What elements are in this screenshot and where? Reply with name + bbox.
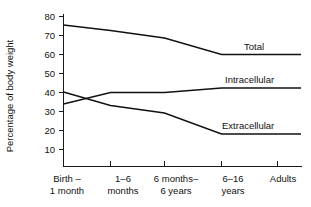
series-label-total: Total bbox=[244, 41, 264, 52]
x-tick-label-1-line2: months bbox=[107, 185, 138, 196]
y-tick-label-50: 50 bbox=[44, 68, 55, 79]
y-tick-label-60: 60 bbox=[44, 49, 55, 60]
x-tick-label-0-line1: Birth – bbox=[53, 173, 81, 184]
x-tick-label-4-line1: Adults bbox=[270, 173, 297, 184]
y-tick-label-20: 20 bbox=[44, 125, 55, 136]
x-tick-label-2-line1: 6 months– bbox=[154, 173, 199, 184]
x-tick-label-3-line2: years bbox=[221, 185, 244, 196]
x-tick-label-0-line2: 1 month bbox=[50, 185, 84, 196]
y-tick-label-70: 70 bbox=[44, 30, 55, 41]
y-tick-label-40: 40 bbox=[44, 87, 55, 98]
y-tick-label-30: 30 bbox=[44, 106, 55, 117]
y-tick-label-80: 80 bbox=[44, 11, 55, 22]
x-tick-label-2-line2: 6 years bbox=[160, 185, 191, 196]
series-label-extracellular: Extracellular bbox=[222, 120, 274, 131]
y-axis-title: Percentage of body weight bbox=[4, 39, 15, 152]
series-label-intracellular: Intracellular bbox=[225, 74, 274, 85]
chart-canvas: Percentage of body weight 80 70 60 50 40… bbox=[0, 0, 311, 207]
series-line-total bbox=[64, 25, 302, 55]
body-water-composition-chart: Percentage of body weight 80 70 60 50 40… bbox=[0, 0, 311, 207]
x-tick-label-1-line1: 1–6 bbox=[115, 173, 131, 184]
x-tick-label-3-line1: 6–16 bbox=[222, 173, 243, 184]
y-tick-label-10: 10 bbox=[44, 144, 55, 155]
